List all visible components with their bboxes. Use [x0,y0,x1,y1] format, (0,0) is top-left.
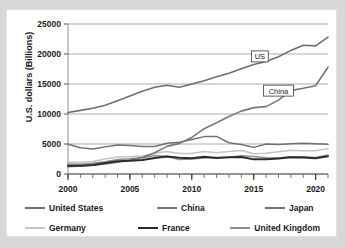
legend-row-1: United States China Japan [25,198,320,218]
chart-legend: United States China Japan Germany France [7,198,338,238]
annotation-us: US [252,51,269,62]
annotation-china: China [263,85,293,96]
legend-item-united-kingdom[interactable]: United Kingdom [230,223,320,233]
series-line-germany [68,148,328,162]
legend-label-france: France [162,223,190,233]
y-axis-tick-label: 15000 [37,79,61,89]
legend-swatch-france [138,227,158,229]
y-axis-tick-label: 10000 [37,109,61,119]
annotation-label: China [269,87,289,96]
series-line-united-states [68,37,328,112]
legend-swatch-united-states [25,207,45,209]
y-axis-tick-label: 0 [56,169,61,179]
legend-item-china[interactable]: China [157,203,265,213]
legend-item-united-states[interactable]: United States [25,203,157,213]
legend-item-japan[interactable]: Japan [265,203,314,213]
x-axis-tick-label: 2020 [306,184,325,194]
y-axis-tick-label: 20000 [37,49,61,59]
legend-label-united-states: United States [49,203,103,213]
line-chart: 0500010000150002000025000200020052010201… [7,10,338,196]
legend-label-germany: Germany [49,223,86,233]
legend-row-2: Germany France United Kingdom [25,218,320,238]
legend-label-china: China [181,203,205,213]
legend-item-germany[interactable]: Germany [25,223,138,233]
legend-swatch-germany [25,227,45,229]
x-axis-tick-label: 2010 [182,184,201,194]
y-axis-tick-label: 5000 [42,139,61,149]
series-line-japan [68,136,328,149]
x-axis-tick-label: 2005 [120,184,139,194]
chart-card: U.S. dollars (Billions) 0500010000150002… [6,9,337,237]
legend-label-united-kingdom: United Kingdom [254,223,320,233]
legend-swatch-china [157,207,177,209]
legend-swatch-united-kingdom [230,227,250,229]
y-axis-tick-label: 25000 [37,19,61,29]
legend-label-japan: Japan [289,203,314,213]
plot-area: U.S. dollars (Billions) 0500010000150002… [7,10,338,196]
x-axis-tick-label: 2000 [59,184,78,194]
legend-swatch-japan [265,207,285,209]
x-axis-tick-label: 2015 [244,184,263,194]
legend-item-france[interactable]: France [138,223,230,233]
annotation-label: US [255,52,265,61]
y-axis-title: U.S. dollars (Billions) [24,7,34,147]
